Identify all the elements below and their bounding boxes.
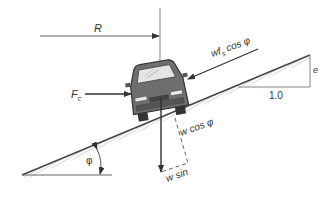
banked-curve-diagram	[0, 0, 334, 199]
car-icon	[122, 57, 194, 123]
slope-run-label: 1.0	[269, 91, 283, 101]
bank-angle-arc	[97, 149, 101, 174]
centripetal-force-label: Fc	[71, 89, 81, 100]
centripetal-force-subscript: c	[78, 95, 82, 102]
radius-label: R	[94, 23, 102, 34]
centripetal-force-symbol: F	[71, 88, 78, 100]
slope-rise-label: e	[313, 66, 318, 75]
bank-angle-label: φ	[86, 156, 92, 166]
